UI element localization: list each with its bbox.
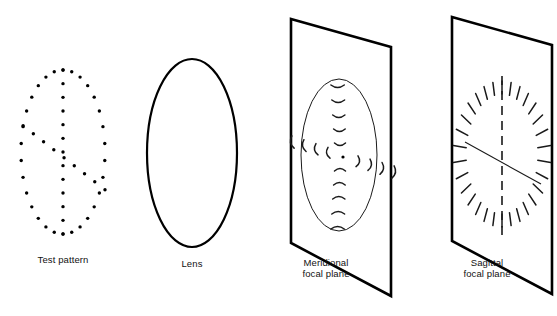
sagittal-diagonal-line [465, 142, 541, 184]
caption-sagittal-line2: focal plane [463, 268, 510, 279]
panel-test-pattern: Test pattern [20, 68, 107, 265]
caption-lens: Lens [181, 258, 202, 269]
test-pattern-dot [93, 205, 96, 208]
test-pattern-dot [37, 217, 40, 220]
test-pattern-dot [73, 164, 76, 167]
test-pattern-dot [61, 219, 64, 222]
sagittal-dash [529, 103, 536, 114]
sagittal-dash [476, 203, 481, 215]
test-pattern-dot [103, 159, 106, 162]
test-pattern-dot [25, 109, 28, 112]
test-pattern-dot [70, 70, 73, 73]
figure-canvas: Test pattern Lens Meridional focal plane… [0, 0, 557, 316]
meridional-arc [334, 129, 346, 132]
test-pattern-dot [61, 205, 64, 208]
diagram-svg: Test pattern Lens Meridional focal plane… [0, 0, 557, 316]
test-pattern-dot [62, 156, 65, 159]
meridional-arc [326, 147, 330, 158]
sagittal-dash [517, 87, 520, 100]
meridional-arc [331, 227, 344, 230]
sagittal-dash [456, 173, 467, 179]
test-pattern-dot [44, 225, 47, 228]
panel-sagittal-focal-plane: Sagittal focal plane [452, 17, 552, 294]
test-pattern-dot [61, 82, 64, 85]
test-pattern-dot [37, 84, 40, 87]
meridional-arc [392, 166, 396, 178]
sagittal-dash [461, 184, 470, 193]
test-pattern-dot [61, 137, 64, 140]
test-pattern-dot [61, 109, 64, 112]
sagittal-dash [453, 145, 466, 147]
test-pattern-dot [25, 191, 28, 194]
meridional-arc [334, 183, 346, 186]
caption-meridional-line1: Meridional [304, 257, 349, 268]
test-pattern-dots [20, 68, 107, 235]
meridional-arc [333, 115, 345, 118]
test-pattern-dot [86, 84, 89, 87]
sagittal-dash [533, 115, 542, 124]
sagittal-dash [493, 213, 495, 226]
test-pattern-dot [52, 148, 55, 151]
test-pattern-dot [61, 191, 64, 194]
sagittal-dash [529, 194, 536, 205]
sagittal-dash [533, 184, 542, 193]
test-pattern-dot [61, 178, 64, 181]
sagittal-dash [468, 194, 475, 205]
test-pattern-dot [70, 231, 73, 234]
sagittal-dash [456, 129, 467, 135]
test-pattern-dot [103, 188, 106, 191]
sagittal-dash [468, 103, 475, 114]
test-pattern-dot [98, 109, 101, 112]
test-pattern-dot [93, 95, 96, 98]
meridional-arc [331, 85, 344, 88]
test-pattern-dot [20, 142, 23, 145]
lens-outline [147, 59, 237, 247]
test-pattern-dot [93, 180, 96, 183]
meridional-arc [332, 100, 345, 103]
test-pattern-dot [83, 172, 86, 175]
panel-meridional-focal-plane: Meridional focal plane [290, 19, 395, 296]
test-pattern-dot [101, 176, 104, 179]
meridional-center-dot [341, 155, 344, 158]
test-pattern-dot [42, 140, 45, 143]
test-pattern-dot [53, 231, 56, 234]
sagittal-dash [484, 209, 487, 222]
test-pattern-dot [61, 232, 64, 235]
sagittal-dash [453, 160, 466, 162]
test-pattern-dot [61, 68, 64, 71]
sagittal-dash [517, 209, 520, 222]
test-pattern-dot [44, 75, 47, 78]
sagittal-dash [538, 160, 551, 162]
sagittal-dash [536, 173, 547, 179]
test-pattern-dot [20, 159, 23, 162]
caption-meridional-line2: focal plane [302, 268, 349, 279]
meridional-arc [302, 140, 306, 152]
caption-sagittal-line1: Sagittal [471, 257, 504, 268]
test-pattern-dot [61, 150, 64, 153]
meridional-arc [335, 143, 346, 146]
sagittal-dash [536, 129, 547, 135]
sagittal-dash [509, 82, 511, 95]
meridional-arc [332, 212, 345, 215]
test-pattern-dot [78, 225, 81, 228]
test-pattern-dot [32, 132, 35, 135]
sagittal-dash [476, 94, 481, 106]
test-pattern-dot [30, 95, 33, 98]
meridional-arc [368, 159, 372, 170]
meridional-arc [333, 197, 345, 200]
meridional-arc [335, 169, 346, 172]
test-pattern-dot [98, 191, 101, 194]
test-pattern-dot [86, 217, 89, 220]
meridional-arc [314, 144, 318, 155]
sagittal-dash [509, 213, 511, 226]
test-pattern-dot [78, 75, 81, 78]
sagittal-dash [461, 115, 470, 124]
test-pattern-dot [53, 70, 56, 73]
test-pattern-dot [30, 205, 33, 208]
caption-test-pattern: Test pattern [38, 254, 89, 265]
test-pattern-dot [21, 176, 24, 179]
meridional-plane-outline [291, 19, 391, 296]
test-pattern-dot [103, 142, 106, 145]
test-pattern-dot [61, 164, 64, 167]
test-pattern-dot [101, 125, 104, 128]
